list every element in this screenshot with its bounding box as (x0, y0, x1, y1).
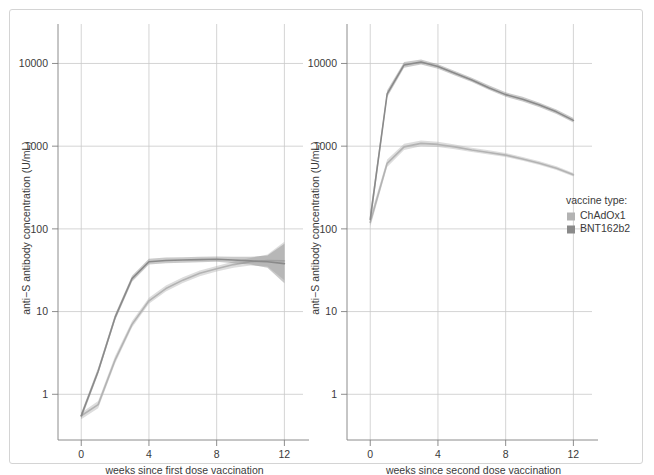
legend-label: ChAdOx1 (580, 209, 626, 221)
y-tick-label: 10 (325, 305, 337, 317)
panel-1: 11010010001000004812weeks since second d… (308, 24, 598, 475)
y-tick-label: 10 (36, 305, 48, 317)
series-line (370, 62, 573, 219)
y-tick-label: 10000 (308, 57, 337, 69)
legend-swatch[interactable] (567, 226, 575, 234)
x-tick-label: 0 (367, 448, 373, 460)
x-tick-label: 4 (435, 448, 441, 460)
panel-0: 11010010001000004812weeks since first do… (19, 24, 309, 475)
y-axis-title: anti−S antibody concentration (U/mL) (309, 141, 321, 315)
series-bnt162b2 (370, 59, 573, 225)
series-line (81, 260, 284, 415)
x-axis-title: weeks since second dose vaccination (385, 464, 561, 475)
antibody-concentration-chart: 11010010001000004812weeks since first do… (0, 0, 654, 475)
series-line (370, 143, 573, 222)
y-tick-label: 100 (30, 223, 48, 235)
y-tick-label: 100 (319, 223, 337, 235)
x-tick-label: 4 (146, 448, 152, 460)
legend-item-bnt162b2[interactable]: BNT162b2 (567, 222, 630, 234)
figure-root: 11010010001000004812weeks since first do… (0, 0, 654, 475)
y-axis-title: anti−S antibody concentration (U/mL) (20, 141, 32, 315)
legend-title: vaccine type: (566, 194, 627, 206)
legend-swatch[interactable] (567, 213, 575, 221)
confidence-band (370, 141, 573, 228)
x-axis-title: weeks since first dose vaccination (104, 464, 263, 475)
confidence-band (81, 244, 284, 419)
y-tick-label: 10000 (19, 57, 48, 69)
x-tick-label: 0 (78, 448, 84, 460)
x-tick-label: 8 (214, 448, 220, 460)
legend: vaccine type:ChAdOx1BNT162b2 (566, 194, 630, 234)
series-chadox1 (370, 141, 573, 228)
series-bnt162b2 (81, 244, 284, 419)
x-tick-label: 12 (279, 448, 291, 460)
y-tick-label: 1 (331, 388, 337, 400)
legend-item-chadox1[interactable]: ChAdOx1 (567, 209, 626, 221)
confidence-band (370, 59, 573, 225)
legend-label: BNT162b2 (580, 222, 630, 234)
y-tick-label: 1 (42, 388, 48, 400)
x-tick-label: 8 (503, 448, 509, 460)
x-tick-label: 12 (568, 448, 580, 460)
